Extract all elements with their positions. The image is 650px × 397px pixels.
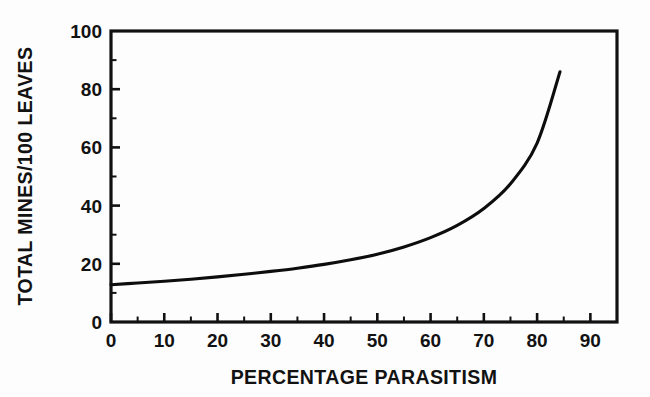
y-axis-title: TOTAL MINES/100 LEAVES [14, 47, 36, 306]
x-tick-label-0: 0 [106, 330, 117, 351]
x-tick-label-50: 50 [367, 330, 388, 351]
x-tick-labels: 0102030405060708090 [106, 330, 601, 351]
x-axis-title: PERCENTAGE PARASITISM [231, 366, 498, 388]
y-tick-label-100: 100 [70, 21, 102, 42]
x-tick-label-40: 40 [313, 330, 334, 351]
y-tick-label-80: 80 [81, 79, 102, 100]
x-tick-label-80: 80 [527, 330, 548, 351]
x-tick-label-30: 30 [260, 330, 281, 351]
x-tick-label-70: 70 [473, 330, 494, 351]
x-tick-label-10: 10 [154, 330, 175, 351]
y-tick-labels: 020406080100 [70, 21, 102, 333]
x-tick-label-60: 60 [420, 330, 441, 351]
y-tick-label-60: 60 [81, 137, 102, 158]
data-series-curve [111, 72, 560, 285]
y-tick-label-40: 40 [81, 196, 102, 217]
figure-canvas: 0102030405060708090 020406080100 PERCENT… [0, 0, 650, 397]
axis-ticks [111, 60, 590, 322]
y-tick-label-0: 0 [91, 312, 102, 333]
x-tick-label-20: 20 [207, 330, 228, 351]
line-chart: 0102030405060708090 020406080100 PERCENT… [0, 0, 650, 397]
y-tick-label-20: 20 [81, 254, 102, 275]
x-tick-label-90: 90 [580, 330, 601, 351]
